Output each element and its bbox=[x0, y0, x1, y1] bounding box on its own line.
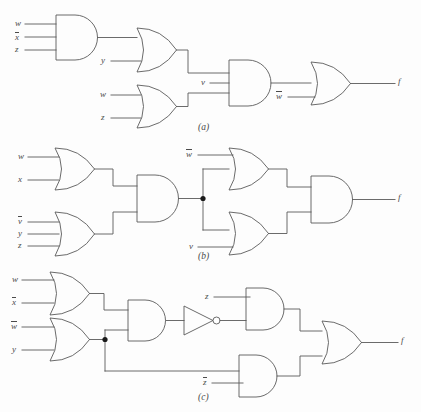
panel-c-circuit bbox=[22, 272, 398, 397]
and-gate-c3-body bbox=[239, 355, 277, 397]
label-a-input-z: z bbox=[15, 45, 19, 54]
and-gate-c1-body bbox=[128, 300, 166, 341]
and-gate-c2-body bbox=[246, 288, 284, 330]
label-c-input-wbar: w bbox=[11, 321, 17, 331]
label-a-input-y: y bbox=[101, 56, 105, 65]
or-gate-c2-body bbox=[50, 318, 90, 361]
label-c-input-w: w bbox=[12, 275, 18, 284]
and-gate-a2-body bbox=[229, 60, 271, 106]
label-c-output-f: f bbox=[401, 336, 404, 345]
circuit-drawing bbox=[0, 0, 421, 412]
logic-circuit-figure: w x z y w z v w f (a) w x v y z w v f (b… bbox=[0, 0, 421, 412]
panel-a-circuit bbox=[25, 15, 395, 128]
or-gate-a3-body bbox=[311, 62, 351, 105]
label-c-input-zbar: z bbox=[203, 377, 207, 387]
label-b-input-vbar: v bbox=[18, 216, 22, 226]
label-b-output-f: f bbox=[398, 193, 401, 202]
label-b-input-y: y bbox=[18, 229, 22, 238]
or-gate-b2-body bbox=[55, 212, 95, 256]
label-a-input-wbar: w bbox=[276, 91, 282, 101]
or-gate-a2-body bbox=[137, 85, 177, 128]
label-c-input-y: y bbox=[12, 345, 16, 354]
and-gate-a1-body bbox=[56, 15, 98, 60]
wire-b-or4-out bbox=[269, 212, 312, 234]
caption-b: (b) bbox=[198, 251, 209, 261]
and-gate-b2-body bbox=[311, 176, 353, 223]
label-b-input-v: v bbox=[189, 242, 193, 251]
wire-c-and3-out bbox=[277, 356, 322, 376]
label-b-input-w: w bbox=[18, 152, 24, 161]
not-gate-c1-body bbox=[184, 306, 213, 335]
not-gate-c1-bubble bbox=[213, 317, 220, 324]
label-c-input-z: z bbox=[205, 292, 209, 301]
or-gate-a1-body bbox=[137, 28, 177, 72]
label-b-input-z: z bbox=[18, 241, 22, 250]
wire-a-or2-out bbox=[177, 93, 230, 107]
label-a-input-w2: w bbox=[100, 90, 106, 99]
junction-dot-b bbox=[200, 196, 205, 201]
label-b-input-x: x bbox=[18, 175, 22, 184]
caption-c: (c) bbox=[198, 392, 209, 402]
label-a-input-z2: z bbox=[101, 113, 105, 122]
or-gate-b1-body bbox=[55, 148, 95, 190]
label-c-input-xbar: x bbox=[12, 297, 16, 307]
or-gate-c1-body bbox=[50, 272, 90, 315]
label-a-input-w: w bbox=[15, 19, 21, 28]
label-a-output-f: f bbox=[398, 77, 401, 86]
label-a-input-v: v bbox=[201, 78, 205, 87]
label-b-input-wbar: w bbox=[186, 149, 192, 159]
or-gate-b4-body bbox=[229, 212, 269, 255]
and-gate-b1-body bbox=[137, 175, 178, 222]
label-a-input-xbar: x bbox=[15, 32, 19, 42]
or-gate-c3-body bbox=[322, 321, 362, 364]
or-gate-b3-body bbox=[229, 148, 269, 190]
junction-dot-c bbox=[102, 337, 107, 342]
panel-b-circuit bbox=[28, 148, 395, 256]
wire-a-or1-out bbox=[177, 50, 230, 73]
wire-b-or3-out bbox=[269, 169, 312, 187]
wire-c-or1-out bbox=[90, 294, 129, 311]
wire-c-and2-out bbox=[284, 309, 322, 331]
caption-a: (a) bbox=[198, 122, 209, 132]
wire-b-or2-out bbox=[95, 212, 138, 234]
wire-b-or1-out bbox=[95, 169, 138, 186]
